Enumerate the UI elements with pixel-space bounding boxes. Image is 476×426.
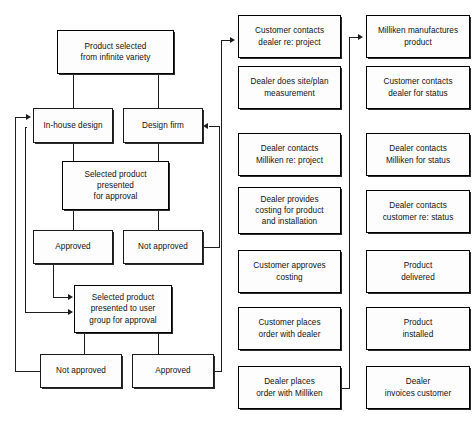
edge-product-split (73, 74, 158, 75)
node-customer-approves-costing: Customer approves costing (238, 250, 341, 293)
edge-dealerorder-right (341, 388, 350, 389)
edge-notapproved1-to-designfirm (209, 126, 220, 127)
node-milliken-manufactures: Milliken manufactures product (366, 15, 470, 58)
node-approved-1: Approved (33, 230, 113, 264)
flowchart-canvas: Product selected from infinite variety I… (0, 0, 476, 426)
edge-approved2-right (214, 371, 222, 372)
node-dealer-contacts-milliken-status: Dealer contacts Milliken for status (366, 133, 470, 176)
node-product-selected: Product selected from infinite variety (57, 30, 174, 74)
edge-inhouse-down (73, 143, 74, 161)
node-approved-2: Approved (132, 354, 214, 388)
arrow-dealerorder-to-milliken (358, 34, 363, 40)
node-dealer-places-order: Dealer places order with Milliken (238, 366, 341, 409)
node-selected-product-user-group: Selected product presented to user group… (74, 285, 172, 333)
edge-approved1-right (53, 297, 69, 298)
arrow-innerloop-to-usergroup (68, 309, 73, 315)
edge-selected-to-approved (73, 210, 74, 230)
arrow-notapproved1-to-designfirm (203, 123, 208, 129)
edge-inner-loop-up (25, 127, 26, 312)
node-in-house-design: In-house design (33, 108, 113, 143)
node-dealer-site-plan: Dealer does site/plan measurement (238, 66, 341, 109)
node-selected-product-approval: Selected product presented for approval (62, 161, 169, 210)
node-dealer-contacts-customer-status: Dealer contacts customer re: status (366, 190, 470, 233)
arrow-approved2-to-customer-contacts (230, 37, 235, 43)
edge-dealerorder-up (349, 37, 350, 388)
node-customer-contacts-dealer: Customer contacts dealer re: project (238, 15, 341, 58)
edge-inner-loop-right (25, 312, 69, 313)
node-design-firm: Design firm (123, 108, 203, 143)
edge-usergroup-to-notapproved (84, 333, 85, 354)
edge-approved2-up (221, 40, 222, 371)
node-dealer-provides-costing: Dealer provides costing for product and … (238, 187, 341, 234)
edge-notapproved1-up (219, 126, 220, 247)
node-dealer-invoices: Dealer invoices customer (366, 366, 470, 409)
arrow-notapproved2-to-inhouse (26, 114, 31, 120)
node-product-installed: Product installed (366, 307, 470, 350)
edge-selected-to-notapproved (158, 210, 159, 230)
edge-notapproved2-up (15, 117, 16, 371)
node-customer-contacts-status: Customer contacts dealer for status (366, 66, 470, 109)
edge-notapproved1-right (203, 247, 220, 248)
node-not-approved-1: Not approved (123, 230, 203, 264)
node-dealer-contacts-milliken: Dealer contacts Milliken re: project (238, 133, 341, 176)
edge-inner-loop-join (25, 127, 27, 128)
node-product-delivered: Product delivered (366, 250, 470, 293)
edge-approved1-down (53, 264, 54, 297)
edge-notapproved2-left (15, 371, 40, 372)
node-not-approved-2: Not approved (40, 354, 122, 388)
edge-to-design-firm (158, 74, 159, 108)
arrow-approved1-to-usergroup (68, 294, 73, 300)
edge-to-in-house (73, 74, 74, 108)
node-customer-places-order: Customer places order with dealer (238, 307, 341, 350)
edge-usergroup-to-approved (158, 333, 159, 354)
